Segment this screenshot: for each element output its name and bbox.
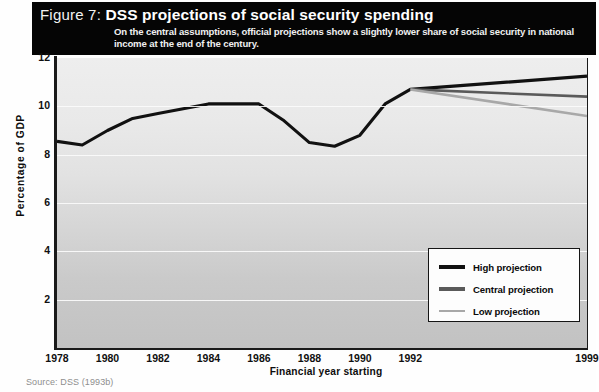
x-tick-label-1980: 1980 xyxy=(96,352,119,364)
y-tick-label-8: 8 xyxy=(4,148,50,160)
y-tick-label-10: 10 xyxy=(4,99,50,111)
legend-label-1: Central projection xyxy=(473,284,553,295)
x-axis-title-text: Financial year starting xyxy=(270,366,383,377)
figure-title: DSS projections of social security spend… xyxy=(105,6,433,23)
legend-swatch-0 xyxy=(439,265,465,269)
legend-item-high-projection: High projection xyxy=(439,260,542,274)
legend-swatch-2 xyxy=(439,310,465,313)
x-tick-label-1982: 1982 xyxy=(146,352,169,364)
x-tick-label-1986: 1986 xyxy=(247,352,270,364)
y-tick-label-4: 4 xyxy=(4,244,50,256)
series-line-high-projection xyxy=(57,76,587,146)
x-axis-title: Financial year starting xyxy=(0,366,596,377)
gridline-y-6 xyxy=(57,203,587,204)
x-tick-label-1978: 1978 xyxy=(45,352,68,364)
gridline-y-8 xyxy=(57,155,587,156)
legend-label-2: Low projection xyxy=(473,306,540,317)
y-tick-label-12: 12 xyxy=(4,51,50,63)
y-tick-label-2: 2 xyxy=(4,293,50,305)
legend-item-low-projection: Low projection xyxy=(439,304,540,318)
x-tick-label-1990: 1990 xyxy=(348,352,371,364)
figure-heading: Figure 7: DSS projections of social secu… xyxy=(40,6,434,24)
y-axis-title: Percentage of GDP xyxy=(15,56,26,276)
y-tick-label-6: 6 xyxy=(4,196,50,208)
x-tick-label-1988: 1988 xyxy=(298,352,321,364)
legend-swatch-1 xyxy=(439,287,465,290)
x-tick-label-1999: 1999 xyxy=(575,352,598,364)
chart-legend: High projectionCentral projectionLow pro… xyxy=(428,248,580,322)
gridline-y-10 xyxy=(57,106,587,107)
figure-subtitle: On the central assumptions, official pro… xyxy=(114,26,584,49)
figure-header-band: Figure 7: DSS projections of social secu… xyxy=(32,2,596,55)
legend-label-0: High projection xyxy=(473,262,542,273)
x-tick-label-1984: 1984 xyxy=(197,352,220,364)
figure-number-label: Figure 7: xyxy=(40,6,101,23)
legend-item-central-projection: Central projection xyxy=(439,282,553,296)
source-note: Source: DSS (1993b) xyxy=(26,377,113,387)
x-tick-label-1992: 1992 xyxy=(399,352,422,364)
